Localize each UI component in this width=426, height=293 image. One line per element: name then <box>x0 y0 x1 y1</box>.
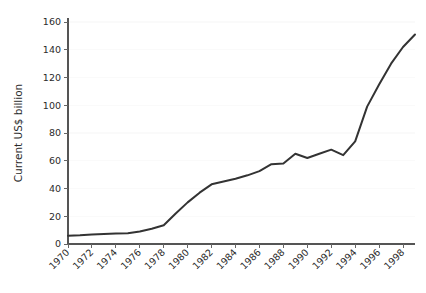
y-tick-label: 100 <box>43 100 61 111</box>
x-tick-label: 1974 <box>94 247 119 272</box>
y-tick-label: 120 <box>43 72 61 83</box>
y-axis-title: Current US$ billion <box>12 84 24 183</box>
x-tick-label: 1982 <box>190 247 215 272</box>
x-tick-label: 1994 <box>334 247 359 272</box>
x-tick-label: 1988 <box>262 247 287 272</box>
axis-spines <box>68 18 415 244</box>
y-tick-label: 40 <box>49 183 61 194</box>
x-tick-label: 1972 <box>70 247 95 272</box>
y-tick-label: 60 <box>49 155 61 166</box>
x-tick-label: 1992 <box>310 247 335 272</box>
y-tick-label: 160 <box>43 16 61 27</box>
x-tick-label: 1986 <box>238 247 263 272</box>
x-tick-label: 1990 <box>286 247 311 272</box>
data-series-line <box>68 34 415 235</box>
x-tick-label: 1996 <box>358 247 383 272</box>
x-tick-label: 1984 <box>214 247 239 272</box>
line-chart: 020406080100120140160 197019721974197619… <box>0 0 426 293</box>
y-tick-label: 140 <box>43 44 61 55</box>
y-tick-label: 20 <box>49 211 61 222</box>
chart-figure: 020406080100120140160 197019721974197619… <box>0 0 426 293</box>
x-axis-tick-labels: 1970197219741976197819801982198419861988… <box>47 247 407 272</box>
y-tick-label: 80 <box>49 127 61 138</box>
y-axis-ticks <box>64 22 68 244</box>
x-tick-label: 1998 <box>382 247 407 272</box>
x-axis-ticks <box>68 244 403 248</box>
x-tick-label: 1980 <box>166 247 191 272</box>
x-tick-label: 1976 <box>118 247 143 272</box>
x-tick-label: 1978 <box>142 247 167 272</box>
y-axis-tick-labels: 020406080100120140160 <box>43 16 61 249</box>
y-tick-label: 0 <box>55 238 61 249</box>
x-tick-label: 1970 <box>47 247 72 272</box>
